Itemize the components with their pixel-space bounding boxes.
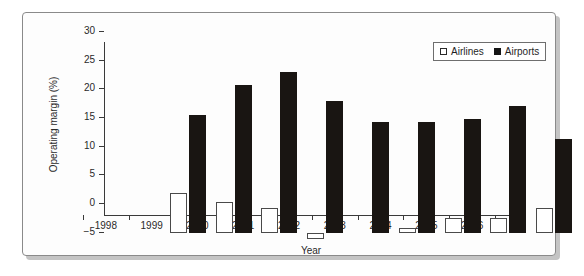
legend-swatch-airlines-icon [440,48,447,55]
bar-airlines-2005 [490,218,507,233]
bar-airlines-2001 [307,233,324,239]
y-tick-label: 20 [67,83,95,93]
x-tick-mark [83,215,84,220]
x-axis-title: Year [105,245,517,256]
y-tick-label: 15 [67,112,95,122]
y-tick-mark [99,174,104,175]
y-tick-label-text: 15 [69,112,95,122]
chart-legend: AirlinesAirports [433,42,546,61]
y-axis-title: Operating margin (%) [48,55,59,195]
legend-label: Airlines [451,46,484,57]
y-tick-label: 30 [67,26,95,36]
y-tick-mark [99,117,104,118]
y-tick-label: 25 [67,55,95,65]
y-tick-mark [99,232,104,233]
bar-airports-2004 [464,119,481,233]
y-tick-label-text: 0 [69,198,95,208]
bar-airports-1999 [235,85,252,233]
y-tick-label-text: 30 [69,26,95,36]
bar-airports-1998 [189,115,206,233]
y-tick-mark [99,60,104,61]
bar-airports-2000 [280,72,297,233]
bar-airports-2005 [509,106,526,233]
y-tick-label-text: 25 [69,55,95,65]
x-tick-mark [129,215,130,220]
legend-swatch-airports-icon [494,48,501,55]
x-tick-mark [358,215,359,220]
bar-airlines-1999 [216,202,233,233]
bar-airlines-2003 [399,228,416,233]
y-tick-mark [99,203,104,204]
bar-airports-2003 [418,122,435,233]
x-tick-mark [312,215,313,220]
x-tick-mark [403,215,404,220]
y-tick-label: 0 [67,198,95,208]
bar-airports-2001 [326,101,343,233]
y-tick-label-text: 5 [69,169,95,179]
bar-airlines-2006 [536,208,553,233]
y-tick-label-text: 10 [69,141,95,151]
bar-airports-2006 [555,139,572,233]
y-tick-label: 10 [67,141,95,151]
legend-item-airlines: Airlines [440,46,484,57]
bar-airports-2002 [372,122,389,233]
bar-airlines-1998 [170,193,187,233]
y-tick-mark [99,146,104,147]
y-tick-label-text: 20 [69,83,95,93]
figure-frame: −5051015202530 1998199920002001200220032… [22,12,556,256]
bar-airlines-2000 [261,208,278,233]
legend-item-airports: Airports [494,46,539,57]
plot-area [105,43,517,215]
bar-airlines-2004 [445,218,462,233]
y-tick-mark [99,31,104,32]
y-tick-label: 5 [67,169,95,179]
legend-label: Airports [505,46,539,57]
y-tick-mark [99,88,104,89]
